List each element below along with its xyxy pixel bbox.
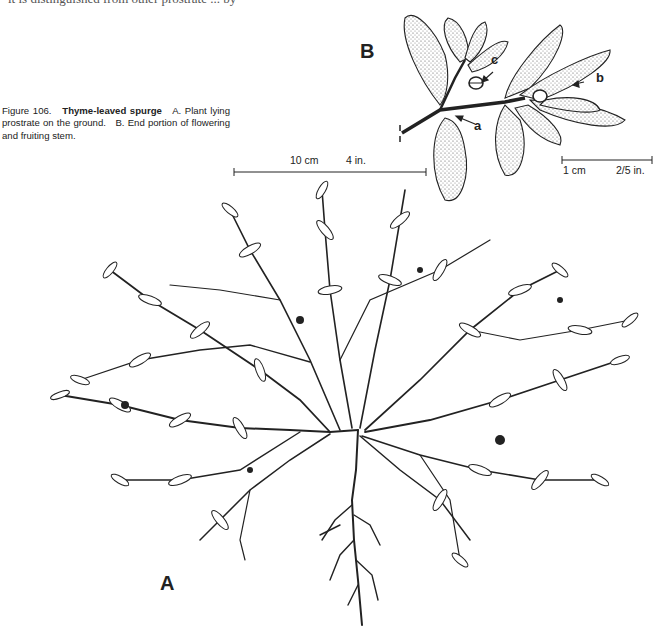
illustration-a-plant <box>0 0 668 633</box>
panel-label-a: A <box>160 572 174 595</box>
